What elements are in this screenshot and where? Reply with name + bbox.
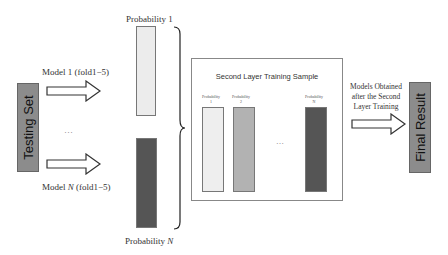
arrow-right-icon xyxy=(46,80,102,102)
curly-brace-icon xyxy=(172,26,186,230)
model-1-label: Model 1 (fold1−5) xyxy=(42,67,109,77)
column-1-bar xyxy=(202,107,224,192)
columns-ellipsis: … xyxy=(276,137,285,146)
testing-set-box: Testing Set xyxy=(17,83,39,172)
probability-1-label: Probability 1 xyxy=(126,14,173,24)
arrow-right-icon xyxy=(46,153,102,175)
testing-set-label: Testing Set xyxy=(21,95,36,159)
second-layer-title: Second Layer Training Sample xyxy=(191,72,343,81)
models-obtained-label: Models Obtained after the Second Layer T… xyxy=(344,82,408,112)
final-result-box: Final Result xyxy=(409,82,431,173)
column-n-label: Probability N xyxy=(302,94,326,104)
column-1-label: Probability 1 xyxy=(199,94,223,104)
final-result-label: Final Result xyxy=(413,93,428,162)
arrow-right-icon xyxy=(351,113,407,135)
column-n-bar xyxy=(305,107,327,192)
column-2-label: Probability 2 xyxy=(229,94,253,104)
column-2-bar xyxy=(233,107,255,192)
probability-1-bar xyxy=(136,26,156,116)
probability-n-bar xyxy=(136,138,157,228)
probability-n-label: Probability N xyxy=(125,236,173,246)
model-n-label: Model N (fold1−5) xyxy=(42,182,111,192)
models-ellipsis: … xyxy=(64,125,74,135)
